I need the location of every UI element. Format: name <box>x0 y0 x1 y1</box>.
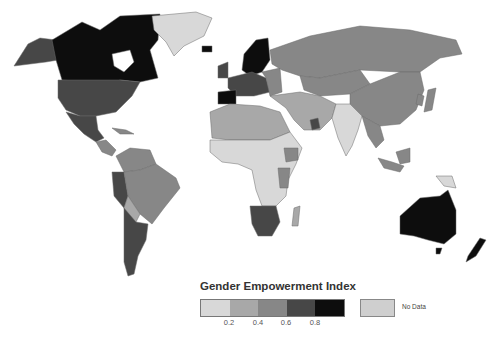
region-india <box>332 104 362 156</box>
region-png <box>436 176 456 188</box>
world-map <box>0 0 504 290</box>
region-tasmania <box>436 248 442 254</box>
region-new-zealand <box>466 238 486 262</box>
region-japan <box>424 88 436 112</box>
region-russia <box>270 26 462 78</box>
region-australia <box>400 190 456 244</box>
region-ethiopia <box>284 148 298 162</box>
legend-tick: 0.4 <box>253 318 263 327</box>
legend-bin-2 <box>258 300 287 316</box>
region-oman <box>310 118 320 130</box>
region-scandinavia <box>242 38 270 76</box>
legend-no-data-label: No Data <box>402 303 426 310</box>
region-spain <box>218 90 236 104</box>
region-iceland <box>202 46 212 52</box>
region-southern-africa <box>250 206 280 236</box>
region-east-africa <box>278 168 290 188</box>
region-mexico <box>66 112 104 142</box>
legend-tick: 0.8 <box>310 318 320 327</box>
legend-bin-4 <box>315 300 344 316</box>
region-alaska <box>14 38 58 66</box>
legend-title: Gender Empowerment Index <box>200 280 356 292</box>
legend-bin-1 <box>230 300 259 316</box>
legend-bin-0 <box>201 300 230 316</box>
region-north-africa <box>210 104 290 140</box>
region-borneo <box>396 148 410 164</box>
legend-no-data-swatch <box>360 299 395 317</box>
legend-bin-3 <box>287 300 316 316</box>
legend-tick: 0.6 <box>281 318 291 327</box>
legend-tick: 0.2 <box>224 318 234 327</box>
region-uk <box>218 62 228 78</box>
region-canada <box>52 14 160 84</box>
region-caribbean <box>112 128 134 134</box>
region-usa <box>58 80 140 116</box>
region-central-america <box>96 140 116 156</box>
region-madagascar <box>292 206 300 226</box>
legend-color-scale <box>200 299 345 317</box>
